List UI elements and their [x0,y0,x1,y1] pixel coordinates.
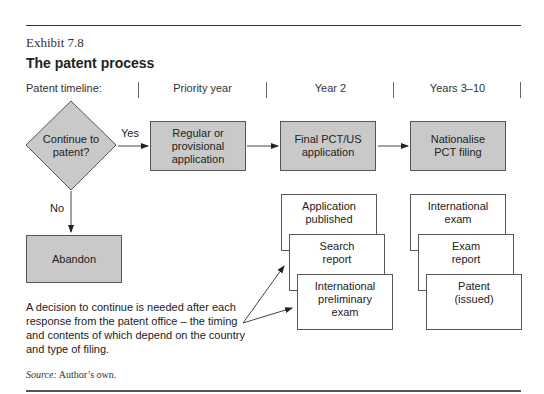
card-line: International [315,280,376,293]
source-line: Source: Author’s own. [26,369,116,380]
no-label: No [50,202,64,214]
step-abandon: Abandon [26,235,122,283]
source-label: Source: [26,369,57,380]
card-line: Search [320,240,355,253]
card-patent-issued: Patent (issued) [426,274,522,330]
card-line: (issued) [454,293,493,306]
note-line: A decision to continue is needed after e… [26,300,246,314]
source-text: Author’s own. [59,369,117,380]
step-regular-application: Regular or provisional application [150,121,246,171]
step-line: Regular or [172,127,225,140]
step-nationalise-pct-filing: Nationalise PCT filing [410,121,506,171]
card-line: published [302,213,356,226]
step-line: provisional [172,140,225,153]
card-line: report [452,253,481,266]
card-line: Patent [454,280,493,293]
card-international-preliminary-exam: International preliminary exam [297,274,393,330]
decision-note: A decision to continue is needed after e… [26,300,246,356]
step-line: PCT filing [431,146,485,159]
card-line: Exam [452,240,481,253]
card-line: preliminary [315,293,376,306]
decision-node: Continue to patent? [26,133,116,159]
card-line: report [320,253,355,266]
decision-line-1: Continue to [26,133,116,146]
note-line: and type of filing. [26,342,246,356]
card-line: exam [315,306,376,319]
step-line: Nationalise [431,133,485,146]
card-line: International [428,200,489,213]
note-line: and contents of which depend on the coun… [26,328,246,342]
yes-label: Yes [121,127,139,139]
step-line: Final PCT/US [294,133,361,146]
step-final-pct-application: Final PCT/US application [280,121,376,171]
decision-line-2: patent? [26,146,116,159]
card-line: Application [302,200,356,213]
step-line: application [294,146,361,159]
step-line: application [172,153,225,166]
note-line: response from the patent office – the ti… [26,314,246,328]
card-line: exam [428,213,489,226]
abandon-label: Abandon [52,253,96,266]
